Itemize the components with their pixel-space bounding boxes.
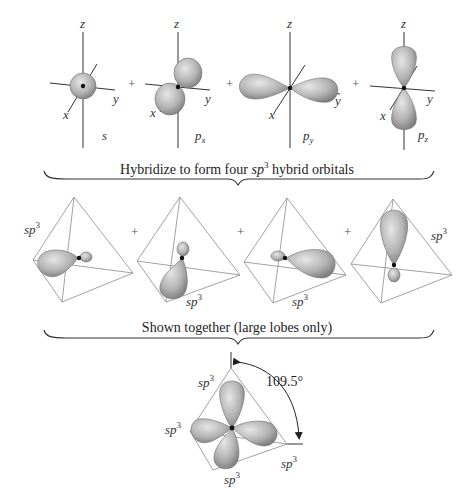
sp3-label-bottom: sp3: [224, 470, 241, 487]
sp3-label: sp3: [431, 226, 448, 243]
px-orbital-label: px: [194, 128, 206, 145]
combined-sp3-orbitals: 109.5° sp3 sp3 sp3 sp3: [165, 352, 303, 487]
y-axis-label: y: [333, 93, 341, 108]
s-orbital-label: s: [102, 128, 107, 143]
hybridize-caption: Hybridize to form four sp3 hybrid orbita…: [120, 160, 354, 177]
px-orbital: z y x px: [145, 16, 211, 148]
sp3-label-left: sp3: [165, 420, 182, 437]
plus-sign: +: [131, 224, 138, 239]
plus-sign: +: [344, 224, 351, 239]
sp3-label: sp3: [186, 292, 203, 309]
py-orbital-label: py: [302, 128, 314, 145]
sp3-hybrid-2: sp3: [137, 197, 240, 309]
plus-sign: +: [128, 76, 135, 91]
sp3-label: sp3: [24, 220, 41, 237]
py-orbital: z y x py: [239, 16, 341, 148]
z-axis-label: z: [286, 16, 292, 31]
sp3-label: sp3: [292, 292, 309, 309]
sp3-label-top: sp3: [198, 373, 215, 390]
sp3-hybrid-3: sp3: [244, 198, 346, 309]
x-axis-label: x: [62, 107, 69, 122]
orbital-hybridization-diagram: z y x s + z y x px + z y x py +: [0, 0, 473, 494]
sp3-hybrid-1: sp3: [24, 197, 133, 302]
pz-orbital: z y x pz: [370, 16, 435, 150]
z-axis-label: z: [173, 16, 179, 31]
shown-together-caption: Shown together (large lobes only): [142, 320, 333, 336]
x-axis-label: x: [268, 107, 275, 122]
bond-angle-label: 109.5°: [266, 374, 303, 389]
plus-sign: +: [226, 76, 233, 91]
s-orbital: z y x s: [50, 16, 119, 148]
plus-sign: +: [352, 76, 359, 91]
z-axis-label: z: [400, 16, 406, 31]
pz-orbital-label: pz: [417, 127, 429, 144]
x-axis-label: x: [379, 108, 386, 123]
plus-sign: +: [237, 224, 244, 239]
y-axis-label: y: [425, 91, 433, 106]
y-axis-label: y: [111, 91, 119, 106]
sp3-label-right: sp3: [281, 454, 298, 471]
sp3-hybrid-4: sp3: [351, 199, 452, 303]
x-axis-label: x: [149, 105, 156, 120]
y-axis-label: y: [203, 91, 211, 106]
z-axis-label: z: [79, 16, 85, 31]
